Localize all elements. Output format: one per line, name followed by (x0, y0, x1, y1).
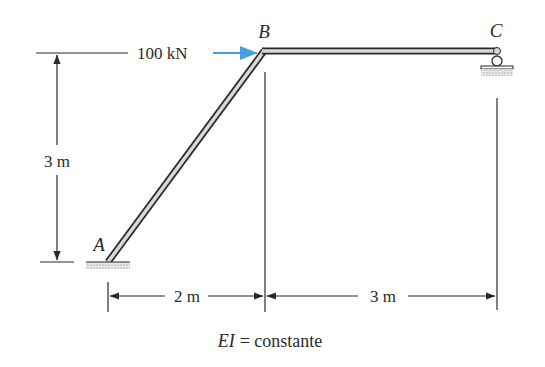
vertical-dimension: 3 m (44, 55, 70, 260)
load-label: 100 kN (137, 44, 188, 63)
horizontal-dimension-right: 3 m (267, 287, 495, 306)
ei-note: EI= constante (217, 331, 323, 351)
dimension-2m: 2 m (174, 287, 200, 306)
member-bc (262, 48, 501, 55)
ei-symbol: EI (217, 331, 236, 351)
ei-constante: = constante (240, 331, 323, 351)
member-ab (108, 51, 264, 262)
fixed-support-a (86, 262, 130, 269)
node-c-label: C (490, 20, 503, 41)
horizontal-dimension-left: 2 m (110, 287, 263, 306)
roller-support-c (481, 56, 513, 76)
node-b-label: B (258, 21, 270, 42)
dimension-3m-vertical: 3 m (44, 152, 70, 171)
frame-diagram: 3 m 100 kN B C A 2 m 3 m (0, 0, 545, 367)
node-a-label: A (91, 234, 105, 255)
dimension-3m-horizontal: 3 m (370, 287, 396, 306)
